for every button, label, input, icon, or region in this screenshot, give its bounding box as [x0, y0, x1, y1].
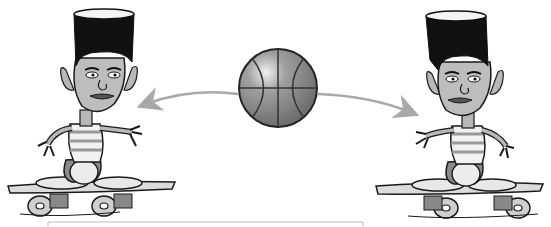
illustration [0, 0, 551, 227]
arrow-to-right [318, 94, 410, 112]
arrow-to-left [146, 92, 238, 104]
basketball-icon [239, 49, 317, 127]
left-skater [8, 9, 175, 216]
right-skater [376, 11, 543, 218]
bottom-frame-line [48, 222, 363, 226]
